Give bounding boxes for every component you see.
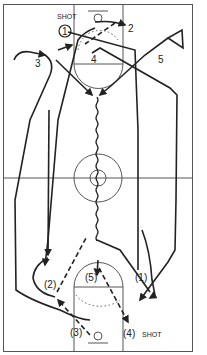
bottom-half-movements [33, 110, 155, 335]
player-2-label: 2 [128, 23, 134, 34]
shot-label-bottom: SHOT [142, 331, 162, 338]
player-1-bottom-label: (1) [135, 272, 147, 283]
player-2-bottom-label: (2) [44, 279, 56, 290]
player-1-label: 1 [62, 26, 68, 37]
player-5-bottom-label: (5) [85, 272, 97, 283]
player-4-bottom-label: (4) [123, 328, 135, 339]
player-4-label: 4 [91, 54, 97, 65]
player-3-label: 3 [35, 58, 41, 69]
basketball-court-diagram: SHOT 1 2 3 4 5 (1) (2) (3) (4) SHOT (5) [0, 0, 207, 355]
shot-label-top: SHOT [57, 13, 77, 20]
player-5-label: 5 [158, 54, 164, 65]
player-3-bottom-label: (3) [70, 327, 82, 338]
